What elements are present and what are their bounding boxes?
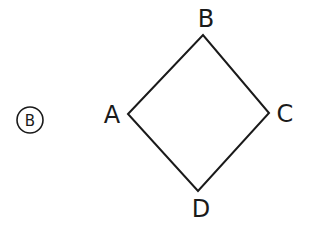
vertex-label-d: D bbox=[192, 195, 210, 223]
choice-label: B bbox=[25, 112, 35, 130]
vertex-label-a: A bbox=[104, 101, 121, 129]
choice-marker: B bbox=[17, 107, 43, 133]
vertex-label-b: B bbox=[198, 5, 214, 33]
vertex-label-c: C bbox=[277, 100, 294, 128]
diagram-canvas: B A B C D bbox=[0, 0, 312, 235]
quadrilateral-abcd bbox=[128, 35, 269, 191]
quadrilateral-diagram: B A B C D bbox=[0, 0, 312, 235]
